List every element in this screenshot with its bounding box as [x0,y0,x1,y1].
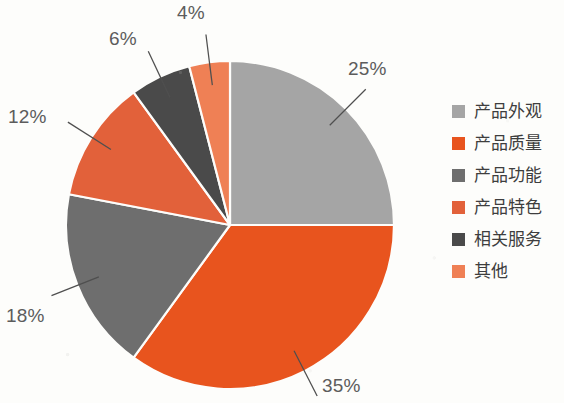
slice-percentage-label: 25% [348,58,387,80]
legend-swatch-icon [452,169,465,182]
pie-chart-figure: 25%35%18%12%6%4% 产品外观 产品质量 产品功能 产品特色 相关服… [0,0,564,403]
legend-swatch-icon [452,201,465,214]
legend-item-label: 其他 [474,263,508,280]
slice-percentage-label: 4% [177,2,205,24]
legend-swatch-icon [452,233,465,246]
chart-legend: 产品外观 产品质量 产品功能 产品特色 相关服务 其他 [452,103,542,279]
slice-percentage-label: 6% [109,28,137,50]
legend-item-label: 产品功能 [474,167,542,184]
legend-item-label: 相关服务 [474,231,542,248]
legend-item[interactable]: 相关服务 [452,231,542,247]
legend-item[interactable]: 产品外观 [452,103,542,119]
legend-item-label: 产品特色 [474,199,542,216]
slice-percentage-label: 12% [8,106,47,128]
legend-item-label: 产品外观 [474,103,542,120]
legend-swatch-icon [452,105,465,118]
legend-item[interactable]: 产品特色 [452,199,542,215]
legend-swatch-icon [452,265,465,278]
legend-item[interactable]: 产品功能 [452,167,542,183]
legend-item[interactable]: 其他 [452,263,542,279]
legend-item-label: 产品质量 [474,135,542,152]
legend-swatch-icon [452,137,465,150]
pie-slice[interactable] [230,61,394,225]
legend-item[interactable]: 产品质量 [452,135,542,151]
slice-percentage-label: 35% [322,375,361,397]
slice-percentage-label: 18% [6,305,45,327]
